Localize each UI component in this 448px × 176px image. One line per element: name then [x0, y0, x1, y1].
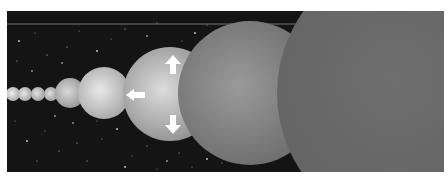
sphere-giant [277, 11, 444, 172]
star [116, 128, 118, 130]
star [191, 166, 192, 167]
sphere-tiny-2 [18, 87, 32, 101]
star [18, 40, 20, 42]
star [146, 145, 147, 146]
star [26, 140, 28, 142]
star [156, 22, 157, 23]
star [124, 28, 125, 29]
star [194, 32, 196, 34]
sphere-medium [78, 67, 130, 119]
star [181, 40, 182, 41]
star [61, 62, 63, 64]
star [206, 158, 208, 160]
star [156, 168, 157, 169]
star [101, 138, 102, 139]
star [58, 150, 59, 151]
star [66, 46, 67, 47]
star [124, 166, 126, 168]
star [146, 35, 148, 37]
scene-canvas [7, 11, 444, 172]
star [31, 70, 33, 72]
sphere-tiny-3 [31, 87, 45, 101]
star [96, 120, 97, 121]
star [221, 162, 222, 163]
star [16, 60, 17, 61]
star [44, 130, 45, 131]
star [78, 30, 79, 31]
star [166, 160, 168, 162]
star [131, 155, 132, 156]
star [96, 50, 98, 52]
star [54, 115, 56, 117]
star [36, 160, 37, 161]
star [178, 152, 179, 153]
star [72, 122, 74, 124]
star [86, 160, 87, 161]
star [46, 54, 47, 55]
star [14, 120, 15, 121]
star [76, 142, 77, 143]
star [110, 38, 111, 39]
star [206, 24, 207, 25]
star [34, 32, 35, 33]
space-spheres-image [7, 11, 444, 172]
